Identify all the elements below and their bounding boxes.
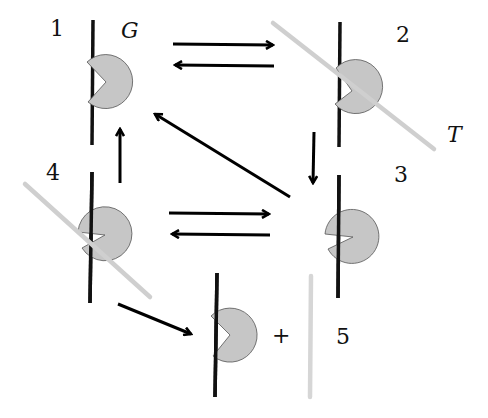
arrow-4-to-3 <box>169 213 269 214</box>
label-state-2: 2 <box>396 24 410 46</box>
state-diagram <box>0 0 488 418</box>
released-trigger-strand <box>310 276 311 397</box>
state-4 <box>25 172 150 303</box>
label-T: T <box>447 124 462 146</box>
label-state-1: 1 <box>50 18 64 40</box>
diagram-canvas: 1 G 2 T 3 4 + 5 <box>0 0 488 418</box>
arrow-3-to-4 <box>172 234 270 235</box>
pacman-3 <box>325 209 379 263</box>
arrow-3-to-1 <box>155 114 290 197</box>
state-5 <box>211 273 311 397</box>
arrow-2-to-3 <box>313 132 314 183</box>
arrow-4-to-5 <box>118 304 191 334</box>
label-G: G <box>121 20 139 42</box>
label-state-5: 5 <box>336 326 350 348</box>
strand-1 <box>92 20 93 145</box>
arrow-2-to-1 <box>175 65 274 66</box>
arrow-1-to-2 <box>173 44 273 45</box>
label-state-4: 4 <box>46 162 60 184</box>
strand-2 <box>339 22 340 147</box>
state-3 <box>325 175 379 298</box>
pacman-4 <box>78 207 132 261</box>
label-state-3: 3 <box>394 164 408 186</box>
plus-sign: + <box>272 325 290 347</box>
